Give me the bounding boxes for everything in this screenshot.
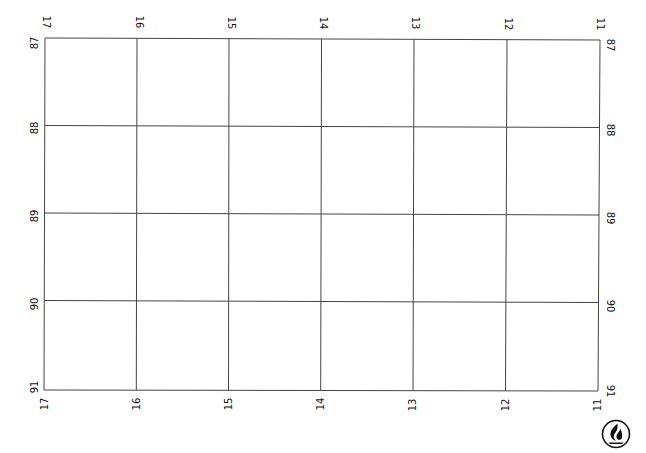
col-label-top: 15 [226, 17, 236, 30]
grid-lines [0, 0, 646, 453]
grid-line-col-15 [229, 39, 230, 391]
row-label-left: 88 [30, 122, 40, 135]
grid-line-row-89 [45, 213, 599, 215]
row-label-left: 90 [30, 298, 40, 311]
row-label-right: 89 [605, 212, 615, 225]
map-grid-sheet: 17 16 15 14 13 12 11 17 16 15 14 13 12 1… [0, 0, 646, 453]
row-label-left: 91 [30, 381, 40, 394]
col-label-bottom: 16 [132, 398, 142, 411]
grid-line-col-14 [321, 39, 322, 391]
row-label-right: 87 [605, 39, 615, 52]
grid-line-col-12 [506, 40, 508, 391]
col-label-top: 17 [41, 16, 51, 29]
grid-line-col-13 [413, 39, 414, 390]
grid-line-row-88 [45, 126, 600, 128]
col-label-bottom: 14 [316, 398, 326, 411]
row-label-right: 90 [605, 300, 615, 313]
col-label-bottom: 11 [593, 399, 603, 412]
col-label-bottom: 12 [501, 399, 511, 412]
col-label-bottom: 17 [40, 398, 50, 411]
row-label-right: 91 [605, 385, 615, 398]
col-label-top: 16 [134, 16, 144, 29]
row-label-left: 89 [30, 210, 40, 223]
row-label-right: 88 [605, 124, 615, 137]
flame-logo-icon [601, 419, 631, 449]
col-label-top: 13 [410, 17, 420, 30]
row-label-left: 87 [30, 37, 40, 50]
grid-line-col-16 [136, 38, 137, 390]
col-label-top: 11 [595, 18, 605, 31]
col-label-top: 12 [503, 18, 513, 31]
col-label-top: 14 [318, 17, 328, 30]
col-label-bottom: 15 [224, 398, 234, 411]
col-label-bottom: 13 [408, 399, 418, 412]
